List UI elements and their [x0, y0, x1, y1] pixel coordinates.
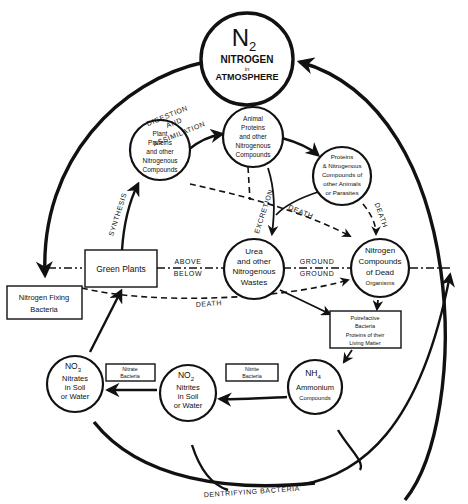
- svg-text:Bacteria: Bacteria: [120, 373, 139, 379]
- node-animal-proteins[interactable]: Animal Proteins and other Nitrogenous Co…: [223, 107, 283, 167]
- svg-text:in Soil: in Soil: [178, 392, 199, 401]
- svg-text:Nitrates: Nitrates: [62, 374, 88, 383]
- label-ground-above: GROUND: [300, 258, 335, 265]
- label-below: BELOW: [174, 270, 202, 277]
- svg-text:Wastes: Wastes: [241, 278, 267, 287]
- svg-text:Compounds of: Compounds of: [322, 171, 363, 178]
- svg-text:Proteins of their: Proteins of their: [346, 332, 385, 338]
- label-above: ABOVE: [174, 258, 201, 265]
- svg-text:Bacteria: Bacteria: [355, 323, 376, 329]
- svg-text:Nitrite: Nitrite: [245, 366, 259, 372]
- svg-text:Green Plants: Green Plants: [96, 264, 146, 274]
- svg-text:or Parasites: or Parasites: [325, 189, 358, 196]
- svg-text:Nitrogenous: Nitrogenous: [232, 267, 275, 276]
- svg-text:Nitrogenous: Nitrogenous: [142, 157, 178, 165]
- svg-text:Urea: Urea: [245, 247, 263, 256]
- svg-text:ATMOSPHERE: ATMOSPHERE: [216, 72, 279, 82]
- svg-text:Nitrogen: Nitrogen: [365, 246, 395, 255]
- arrow-putrefactive-to-ammonium: [344, 350, 352, 362]
- arrow-nitrates-to-plants: [90, 291, 121, 352]
- svg-text:of Dead: of Dead: [366, 268, 394, 277]
- svg-text:other Animals: other Animals: [323, 180, 361, 187]
- node-nitrite-bacteria[interactable]: Nitrite Bacteria: [226, 364, 278, 381]
- label-death-fixing: DEATH: [196, 299, 223, 308]
- svg-text:or Water: or Water: [174, 401, 203, 410]
- svg-text:Compounds: Compounds: [235, 151, 271, 159]
- svg-text:Nitrate: Nitrate: [122, 366, 138, 372]
- label-ground-below: GROUND: [300, 270, 335, 277]
- svg-text:NITROGEN: NITROGEN: [221, 54, 274, 65]
- arrow-parasite-death: [363, 204, 376, 234]
- node-nitrate-bacteria[interactable]: Nitrate Bacteria: [106, 364, 155, 381]
- node-nitrogen-fixing-bacteria[interactable]: Nitrogen Fixing Bacteria: [7, 286, 82, 319]
- svg-text:Nitrogenous: Nitrogenous: [235, 142, 271, 150]
- svg-text:Putrefactive: Putrefactive: [350, 315, 379, 321]
- svg-text:Ammonium: Ammonium: [296, 383, 334, 392]
- node-ammonium[interactable]: NH4 Ammonium Compounds: [288, 360, 342, 414]
- node-nitrates[interactable]: NO3 Nitrates in Soil or Water: [47, 356, 103, 412]
- node-putrefactive-bacteria[interactable]: Putrefactive Bacteria Proteins of their …: [330, 311, 401, 348]
- node-parasite-proteins[interactable]: Proteins & Nitrogenous Compounds of othe…: [313, 147, 371, 205]
- label-excretion: EXCRETION: [253, 188, 274, 234]
- arrow-animal-death: [248, 167, 250, 200]
- svg-text:Organisms: Organisms: [365, 280, 394, 286]
- ammonium-down-line: [338, 430, 361, 470]
- node-green-plants[interactable]: Green Plants: [85, 250, 157, 287]
- svg-text:Animal: Animal: [243, 115, 263, 122]
- svg-text:Compounds: Compounds: [142, 166, 178, 174]
- svg-text:and other: and other: [239, 133, 267, 140]
- svg-text:and other: and other: [237, 257, 271, 266]
- svg-text:Bacteria: Bacteria: [242, 373, 261, 379]
- node-urea[interactable]: Urea and other Nitrogenous Wastes: [224, 239, 284, 299]
- svg-text:Nitrites: Nitrites: [176, 383, 200, 392]
- arrow-dead-to-putrefactive: [377, 300, 378, 309]
- arrow-animal-to-parasite: [282, 138, 318, 155]
- svg-text:and other: and other: [146, 148, 174, 155]
- svg-text:Living Matter: Living Matter: [349, 340, 381, 346]
- svg-text:Proteins: Proteins: [331, 153, 354, 160]
- arc-nitrates-to-dentrify: [94, 422, 315, 486]
- svg-text:Compounds: Compounds: [299, 395, 330, 401]
- svg-text:Bacteria: Bacteria: [30, 305, 58, 314]
- arrow-ammonium-to-nitrites: [220, 397, 287, 399]
- svg-text:Proteins: Proteins: [241, 124, 266, 131]
- svg-text:Nitrogen Fixing: Nitrogen Fixing: [19, 293, 69, 302]
- svg-text:Compounds: Compounds: [358, 257, 401, 266]
- svg-text:& Nitrogenous: & Nitrogenous: [322, 162, 361, 169]
- arrow-digestion: [188, 134, 222, 150]
- svg-text:in Soil: in Soil: [65, 383, 86, 392]
- label-death-parasite: DEATH: [374, 202, 390, 229]
- node-dead-organisms[interactable]: Nitrogen Compounds of Dead Organisms: [351, 239, 409, 297]
- node-atmosphere[interactable]: N2 NITROGEN in ATMOSPHERE: [201, 13, 293, 105]
- svg-text:or Water: or Water: [61, 392, 90, 401]
- arrow-urea-to-putrefactive: [280, 290, 330, 314]
- nitrogen-cycle-diagram: N2 NITROGEN in ATMOSPHERE Plant Proteins…: [0, 0, 468, 504]
- node-nitrites[interactable]: NO2 Nitrites in Soil or Water: [160, 365, 216, 421]
